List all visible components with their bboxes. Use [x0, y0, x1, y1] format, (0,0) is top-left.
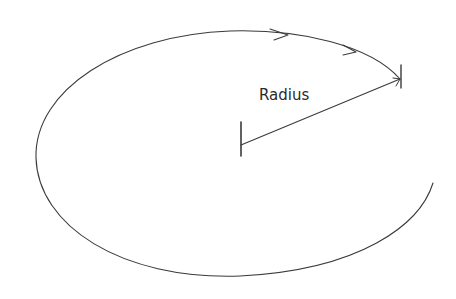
- orbit-curve: [36, 31, 433, 276]
- direction-arrow-icon: [343, 45, 356, 55]
- radius-label: Radius: [259, 86, 309, 104]
- radius-diagram: Radius: [0, 0, 456, 299]
- direction-arrow-icon: [270, 29, 288, 40]
